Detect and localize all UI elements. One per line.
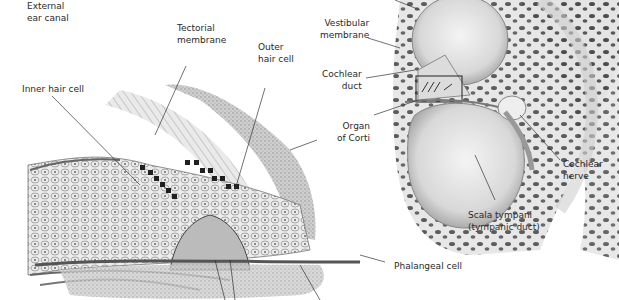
label-inner-hair-cell: Inner hair cell: [22, 83, 84, 95]
label-cochlear-nerve: Cochlear nerve: [563, 158, 603, 182]
label-scala-tympani: Scala tympani (tympanic duct): [468, 209, 540, 233]
label-organ-of-corti: Organ of Corti: [337, 120, 370, 144]
label-vestibular-membrane: Vestibular membrane: [320, 17, 369, 41]
cochlea-diagram: External ear canal Tectorial membrane Ou…: [0, 0, 619, 300]
label-cochlear-duct: Cochlear duct: [322, 68, 362, 92]
label-tectorial-membrane: Tectorial membrane: [177, 22, 226, 46]
label-external-ear-canal: External ear canal: [27, 0, 69, 24]
label-phalangeal-cell: Phalangeal cell: [394, 260, 462, 272]
organ-of-corti-detail: [28, 84, 360, 298]
label-outer-hair-cell: Outer hair cell: [258, 41, 294, 65]
anatomy-illustration: [0, 0, 619, 300]
